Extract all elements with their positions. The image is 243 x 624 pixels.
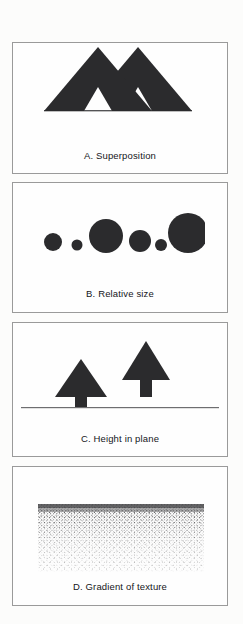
- tree-far: [122, 341, 170, 397]
- panel-relative-size: B. Relative size: [12, 182, 228, 313]
- caption-height-in-plane: C. Height in plane: [13, 433, 227, 444]
- figure-relative-size: [13, 209, 227, 257]
- panel-superposition: A. Superposition: [12, 42, 228, 174]
- panel-height-in-plane: C. Height in plane: [12, 322, 228, 457]
- figure-gradient-of-texture: [38, 504, 204, 572]
- two-overlapping-triangles-icon: [40, 43, 200, 115]
- tree-near: [55, 359, 107, 408]
- two-trees-on-horizon-icon: [19, 333, 221, 411]
- figure-height-in-plane: [13, 333, 227, 411]
- panel-gradient-of-texture: D. Gradient of texture: [12, 466, 228, 606]
- figure-superposition: [13, 43, 227, 115]
- row-of-circles-icon: [35, 209, 205, 257]
- stipple-gradient-icon: [38, 504, 204, 572]
- caption-relative-size: B. Relative size: [13, 288, 227, 299]
- caption-gradient-of-texture: D. Gradient of texture: [13, 581, 227, 592]
- horizon-line: [21, 407, 219, 408]
- caption-superposition: A. Superposition: [13, 150, 227, 161]
- figure-plate: A. Superposition B. Relative size: [0, 0, 243, 624]
